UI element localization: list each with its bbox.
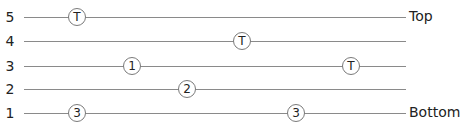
circle-marker: T <box>68 8 86 26</box>
row-label: 4 <box>4 32 16 50</box>
circle-marker: 1 <box>123 57 141 75</box>
circle-marker: 2 <box>178 80 196 98</box>
row-label: 2 <box>4 80 16 98</box>
circle-marker: T <box>233 32 251 50</box>
row-label: 5 <box>4 8 16 26</box>
circle-marker: T <box>342 57 360 75</box>
circle-marker: 3 <box>68 104 86 122</box>
end-label: Top <box>409 7 433 25</box>
row-label: 1 <box>4 104 16 122</box>
end-label: Bottom <box>409 103 460 121</box>
row-label: 3 <box>4 57 16 75</box>
row-line <box>24 89 406 90</box>
row-line <box>24 41 406 42</box>
circle-marker: 3 <box>287 104 305 122</box>
